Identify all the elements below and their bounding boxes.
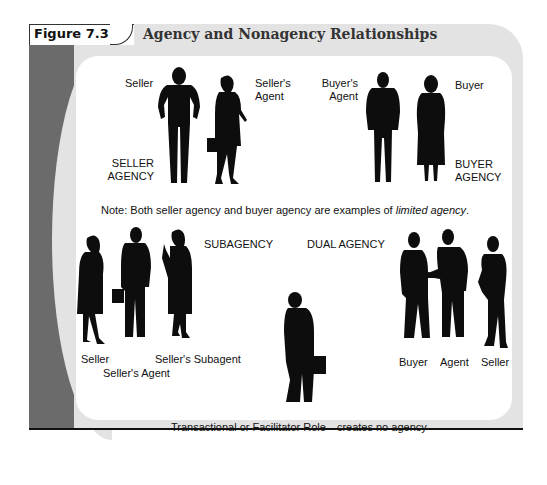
- subagency-seller-silhouette: [77, 234, 111, 346]
- subagency-group-label: SUBAGENCY: [204, 238, 273, 251]
- subagency-sellers-agent-silhouette: [111, 227, 153, 339]
- seller-agency-group-label: SELLER AGENCY: [100, 157, 154, 183]
- buyers-agent-label: Buyer's Agent: [310, 77, 358, 103]
- note-emphasis: limited agency: [396, 204, 466, 216]
- figure-title: Agency and Nonagency Relationships: [143, 26, 437, 42]
- dual-agency-group-label: DUAL AGENCY: [307, 238, 385, 251]
- facilitator-caption: Transactional or Facilitator Role—create…: [171, 421, 427, 434]
- dual-agent-silhouette: [428, 229, 470, 339]
- dual-agent-label: Agent: [440, 356, 469, 369]
- subagency-sellers-agent-label: Seller's Agent: [103, 367, 170, 380]
- seller-silhouette: [157, 67, 201, 183]
- buyer-label: Buyer: [455, 79, 484, 92]
- sellers-agent-label: Seller's Agent: [255, 77, 291, 103]
- subagency-sellers-subagent-silhouette: [160, 228, 194, 338]
- subagency-seller-label: Seller: [81, 353, 109, 366]
- sellers-agent-silhouette: [207, 74, 251, 184]
- dual-seller-label: Seller: [481, 356, 509, 369]
- seller-agency-line2: AGENCY: [100, 170, 154, 183]
- buyer-agency-line2: AGENCY: [455, 171, 501, 184]
- buyer-silhouette: [416, 75, 446, 183]
- buyer-agency-line1: BUYER: [455, 158, 501, 171]
- limited-agency-note: Note: Both seller agency and buyer agenc…: [101, 204, 469, 217]
- buyers-agent-label-line1: Buyer's: [310, 77, 358, 90]
- buyer-agency-group-label: BUYER AGENCY: [455, 158, 501, 184]
- seller-agency-line1: SELLER: [100, 157, 154, 170]
- subagency-sellers-subagent-label: Seller's Subagent: [155, 353, 241, 366]
- buyers-agent-label-line2: Agent: [310, 90, 358, 103]
- facilitator-silhouette: [282, 292, 328, 406]
- note-suffix: .: [466, 204, 469, 216]
- dual-buyer-label: Buyer: [399, 356, 428, 369]
- dual-seller-silhouette: [478, 236, 508, 350]
- buyers-agent-silhouette: [366, 72, 400, 184]
- figure-number: Figure 7.3: [34, 26, 109, 41]
- note-prefix: Note: Both seller agency and buyer agenc…: [101, 204, 396, 216]
- sellers-agent-label-line2: Agent: [255, 90, 291, 103]
- sellers-agent-label-line1: Seller's: [255, 77, 291, 90]
- seller-label: Seller: [125, 77, 153, 90]
